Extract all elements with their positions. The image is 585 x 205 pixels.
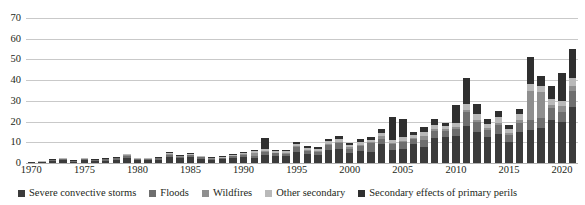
bar-2003 (378, 129, 385, 163)
bar-segment (495, 125, 502, 134)
x-axis: 1970197519801985199019952000200520102015… (26, 165, 578, 179)
bar-segment (378, 144, 385, 163)
plot-area (26, 18, 578, 163)
bar-1987 (208, 157, 215, 163)
bar-1991 (251, 150, 258, 163)
bar-1979 (123, 154, 130, 164)
bar-segment (166, 157, 173, 163)
legend-label: Other secondary (276, 188, 345, 199)
bar-2006 (410, 132, 417, 163)
gridline (26, 80, 578, 81)
legend-item-2[interactable]: Wildfires (202, 188, 252, 199)
bar-segment (516, 123, 523, 132)
bar-segment (537, 76, 544, 86)
legend-swatch-icon (149, 190, 156, 197)
bar-segment (516, 132, 523, 163)
x-axis-tick-label: 2005 (392, 165, 413, 176)
bar-2019 (548, 86, 555, 163)
bar-segment (272, 156, 279, 163)
bar-segment (537, 128, 544, 163)
bar-segment (389, 150, 396, 163)
bar-segment (431, 131, 438, 138)
bar-1998 (325, 139, 332, 163)
y-axis: 010203040506070 (0, 18, 24, 163)
legend-item-1[interactable]: Floods (149, 188, 189, 199)
bar-segment (38, 162, 45, 163)
x-axis-tick-label: 1985 (180, 165, 201, 176)
bar-1996 (304, 146, 311, 163)
bar-segment (484, 130, 491, 137)
bar-segment (569, 107, 576, 163)
bar-segment (420, 147, 427, 163)
bar-segment (367, 143, 374, 151)
bar-segment (495, 134, 502, 163)
bar-segment (548, 120, 555, 164)
bar-2001 (357, 139, 364, 163)
legend-item-0[interactable]: Severe convective storms (18, 188, 136, 199)
legend-item-4[interactable]: Secondary effects of primary perils (358, 188, 517, 199)
bar-segment (505, 135, 512, 142)
bar-2009 (442, 123, 449, 163)
x-axis-tick-label: 1970 (21, 165, 42, 176)
bar-segment (537, 92, 544, 119)
bar-segment (155, 160, 162, 163)
bar-segment (81, 160, 88, 163)
bar-2016 (516, 109, 523, 163)
bar-segment (261, 155, 268, 163)
bar-segment (251, 158, 258, 163)
bar-segment (91, 161, 98, 163)
bar-segment (70, 162, 77, 163)
bar-2004 (389, 117, 396, 163)
bar-2008 (431, 119, 438, 163)
bar-2010 (452, 105, 459, 163)
bar-segment (442, 137, 449, 163)
bar-segment (420, 140, 427, 147)
bar-segment (346, 153, 353, 163)
bar-2012 (473, 104, 480, 163)
bar-segment (473, 104, 480, 114)
x-axis-tick-label: 2000 (339, 165, 360, 176)
bar-segment (569, 78, 576, 86)
bar-2020 (558, 73, 565, 163)
bar-2017 (527, 57, 534, 163)
y-axis-tick-label: 10 (11, 137, 22, 148)
y-axis-tick-label: 50 (11, 54, 22, 65)
gridline (26, 18, 578, 19)
bar-1985 (187, 153, 194, 163)
bar-1970 (28, 162, 35, 163)
legend-label: Floods (160, 188, 189, 199)
bar-segment (49, 161, 56, 163)
bar-segment (28, 162, 35, 163)
y-axis-tick-label: 30 (11, 96, 22, 107)
bar-segment (505, 142, 512, 163)
bar-segment (219, 159, 226, 163)
bar-1999 (335, 136, 342, 163)
bar-2000 (346, 143, 353, 163)
bar-2018 (537, 76, 544, 163)
bar-segment (113, 160, 120, 163)
bar-1976 (91, 159, 98, 163)
bar-2011 (463, 78, 470, 163)
bar-segment (399, 119, 406, 138)
bar-1975 (81, 158, 88, 163)
bar-segment (144, 160, 151, 163)
bar-2007 (420, 127, 427, 163)
bar-2015 (505, 125, 512, 163)
legend-label: Severe convective storms (29, 188, 136, 199)
bar-1983 (166, 152, 173, 163)
bar-segment (399, 149, 406, 164)
bar-segment (240, 157, 247, 163)
bar-segment (569, 49, 576, 78)
bar-segment (325, 150, 332, 163)
bar-1977 (102, 158, 109, 163)
bar-1980 (134, 158, 141, 163)
bar-segment (463, 112, 470, 125)
bar-1972 (49, 159, 56, 163)
x-axis-tick-label: 1990 (233, 165, 254, 176)
legend-item-3[interactable]: Other secondary (265, 188, 345, 199)
bar-segment (335, 149, 342, 164)
bar-segment (537, 118, 544, 127)
x-axis-tick-label: 1980 (127, 165, 148, 176)
bar-segment (304, 154, 311, 163)
bar-segment (473, 122, 480, 132)
